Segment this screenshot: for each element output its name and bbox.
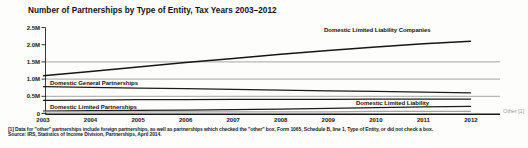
source-text: Source: IRS, Statistics of Income Divisi… — [8, 132, 162, 138]
x-tick-label-2004: 2004 — [76, 117, 106, 123]
x-tick-label-2003: 2003 — [28, 117, 58, 123]
x-tick-label-2008: 2008 — [266, 117, 296, 123]
x-tick-label-2007: 2007 — [218, 117, 248, 123]
series-label-other: Other [1] — [503, 108, 524, 114]
y-tick-label-2.5M: 2.5M — [8, 25, 40, 31]
x-tick-label-2011: 2011 — [408, 117, 438, 123]
partnerships-chart-figure: Number of Partnerships by Type of Entity… — [0, 0, 528, 148]
y-tick-label-0.5M: 0.5M — [8, 93, 40, 99]
x-tick-label-2010: 2010 — [361, 117, 391, 123]
chart-title: Number of Partnerships by Type of Entity… — [28, 6, 277, 15]
y-tick-label-2.0M: 2.0M — [8, 42, 40, 48]
x-tick-label-2012: 2012 — [456, 117, 486, 123]
series-label-domestic-limited-partnerships: Domestic Limited Partnerships — [50, 104, 137, 110]
series-line-1 — [43, 87, 471, 93]
x-tick-label-2006: 2006 — [171, 117, 201, 123]
series-label-domestic-llc: Domestic Limited Liability Companies — [324, 27, 431, 33]
x-tick-label-2005: 2005 — [123, 117, 153, 123]
series-label-domestic-limited-liability: Domestic Limited Liability — [356, 100, 429, 106]
y-tick-label-1.0M: 1.0M — [8, 76, 40, 82]
series-label-domestic-general-partnerships: Domestic General Partnerships — [50, 80, 138, 86]
y-tick-label-1.5M: 1.5M — [8, 59, 40, 65]
x-tick-label-2009: 2009 — [313, 117, 343, 123]
series-line-0 — [43, 41, 471, 75]
